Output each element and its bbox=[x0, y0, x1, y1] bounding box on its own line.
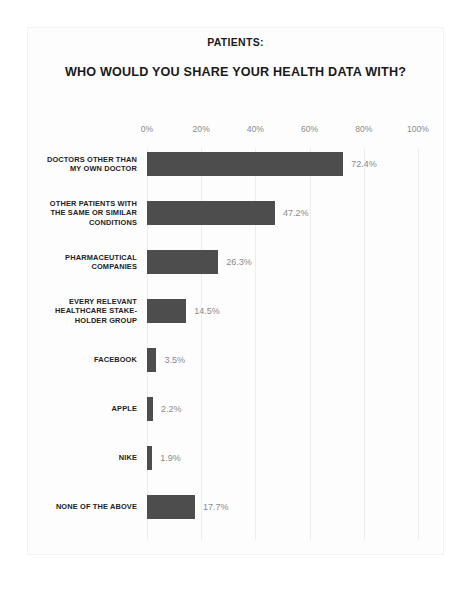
bar-row: 72.4%DOCTORS OTHER THANMY OWN DOCTOR bbox=[147, 152, 418, 176]
category-label: APPLE bbox=[25, 404, 137, 413]
bar-row: 47.2%OTHER PATIENTS WITHTHE SAME OR SIMI… bbox=[147, 201, 418, 225]
bar-value-label: 26.3% bbox=[226, 257, 252, 267]
bar-row: 17.7%NONE OF THE ABOVE bbox=[147, 495, 418, 519]
gridline bbox=[418, 148, 419, 540]
bar-value-label: 47.2% bbox=[283, 208, 309, 218]
category-label: OTHER PATIENTS WITHTHE SAME OR SIMILARCO… bbox=[25, 199, 137, 227]
x-tick-label: 60% bbox=[301, 124, 318, 134]
x-tick-label: 80% bbox=[355, 124, 372, 134]
bar[interactable] bbox=[147, 152, 343, 176]
figure: PATIENTS: WHO WOULD YOU SHARE YOUR HEALT… bbox=[0, 0, 471, 593]
bar[interactable] bbox=[147, 495, 195, 519]
chart-supertitle: PATIENTS: bbox=[27, 36, 444, 48]
x-axis-tick-labels: 0%20%40%60%80%100% bbox=[147, 124, 418, 138]
category-label: EVERY RELEVANTHEALTHCARE STAKE-HOLDER GR… bbox=[25, 297, 137, 325]
bar-value-label: 14.5% bbox=[194, 306, 220, 316]
x-tick-label: 0% bbox=[141, 124, 153, 134]
bar[interactable] bbox=[147, 201, 275, 225]
category-label: PHARMACEUTICALCOMPANIES bbox=[25, 253, 137, 272]
bar-row: 3.5%FACEBOOK bbox=[147, 348, 418, 372]
bar-row: 14.5%EVERY RELEVANTHEALTHCARE STAKE-HOLD… bbox=[147, 299, 418, 323]
bar-row: 2.2%APPLE bbox=[147, 397, 418, 421]
bar[interactable] bbox=[147, 397, 153, 421]
bar[interactable] bbox=[147, 446, 152, 470]
bar-row: 26.3%PHARMACEUTICALCOMPANIES bbox=[147, 250, 418, 274]
bar-value-label: 72.4% bbox=[351, 159, 377, 169]
category-label: NIKE bbox=[25, 453, 137, 462]
bar-value-label: 17.7% bbox=[203, 502, 229, 512]
x-tick-label: 20% bbox=[193, 124, 210, 134]
bar[interactable] bbox=[147, 250, 218, 274]
x-tick-label: 40% bbox=[247, 124, 264, 134]
x-tick-label: 100% bbox=[407, 124, 429, 134]
bar[interactable] bbox=[147, 299, 186, 323]
category-label: DOCTORS OTHER THANMY OWN DOCTOR bbox=[25, 155, 137, 174]
chart-title-block: PATIENTS: WHO WOULD YOU SHARE YOUR HEALT… bbox=[27, 36, 444, 79]
bar-value-label: 2.2% bbox=[161, 404, 182, 414]
bar-row: 1.9%NIKE bbox=[147, 446, 418, 470]
category-label: NONE OF THE ABOVE bbox=[25, 502, 137, 511]
bar-chart-plot-area: 72.4%DOCTORS OTHER THANMY OWN DOCTOR47.2… bbox=[147, 148, 418, 540]
category-label: FACEBOOK bbox=[25, 355, 137, 364]
bar-value-label: 1.9% bbox=[160, 453, 181, 463]
chart-title: WHO WOULD YOU SHARE YOUR HEALTH DATA WIT… bbox=[27, 65, 444, 79]
bar[interactable] bbox=[147, 348, 156, 372]
bar-value-label: 3.5% bbox=[164, 355, 185, 365]
